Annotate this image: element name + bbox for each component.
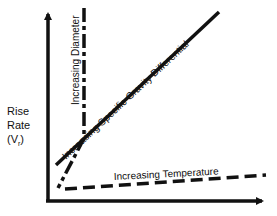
y-axis-label-line1: Rise [7,104,30,118]
y-axis-label: Rise Rate (Vr) [7,104,30,151]
y-axis-label-line2: Rate [7,118,30,132]
y-axis-label-symbol: (Vr) [7,132,30,151]
temperature-label: Increasing Temperature [114,166,220,182]
diameter-label: Increasing Diameter [70,15,81,105]
rise-rate-diagram: Increasing Diameter Increasing Specific … [0,0,277,216]
